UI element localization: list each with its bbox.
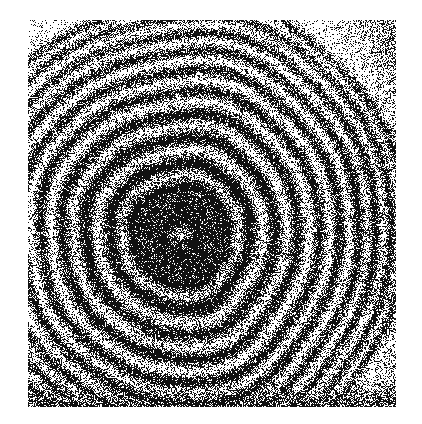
photographic-plate (28, 20, 396, 407)
interferogram-canvas (28, 20, 396, 407)
figure-root: A bitonal halftone photograph of a circu… (0, 0, 422, 424)
figure-title: Newton's rings interferogram (0, 0, 1, 1)
figure-alt-text: A bitonal halftone photograph of a circu… (0, 0, 1, 1)
